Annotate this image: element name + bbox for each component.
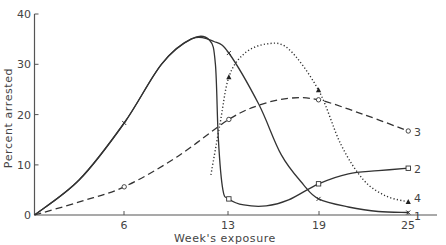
series-4	[211, 43, 411, 204]
x-tick-label: 25	[401, 219, 415, 232]
x-axis-title: Week's exposure	[174, 232, 276, 245]
square-marker	[406, 166, 410, 170]
series-line	[35, 98, 409, 215]
series-3	[35, 98, 411, 215]
x-tick-label: 13	[221, 219, 235, 232]
y-tick-label: 40	[17, 8, 31, 21]
series-label-1: 1	[414, 210, 421, 223]
series-label-4: 4	[414, 192, 421, 205]
circle-marker	[406, 129, 410, 133]
x-axis: 6 13 19 25 Week's exposure	[35, 211, 438, 245]
series-labels: 1 2 3 4	[414, 126, 421, 223]
y-tick-label: 10	[17, 159, 31, 172]
y-tick-label: 30	[17, 58, 31, 71]
series-line	[211, 43, 408, 202]
series-line	[35, 36, 409, 215]
series-line	[35, 37, 409, 215]
y-tick-label: 0	[24, 209, 31, 222]
x-tick-label: 19	[312, 219, 326, 232]
series-layer	[35, 36, 411, 215]
square-marker	[316, 182, 320, 186]
circle-marker	[316, 98, 320, 102]
series-label-2: 2	[414, 163, 421, 176]
square-marker	[227, 197, 231, 201]
cross-marker	[227, 51, 231, 55]
circle-marker	[122, 185, 126, 189]
series-label-3: 3	[414, 126, 421, 139]
triangle-marker	[316, 87, 321, 92]
triangle-marker	[226, 74, 231, 79]
x-tick-label: 6	[121, 219, 128, 232]
line-chart: 0 10 20 30 40 Percent arrested 6 13 19 2…	[0, 0, 446, 245]
y-axis-title: Percent arrested	[2, 68, 15, 168]
circle-marker	[227, 117, 231, 121]
triangle-marker	[406, 199, 411, 204]
y-tick-label: 20	[17, 109, 31, 122]
y-axis: 0 10 20 30 40 Percent arrested	[2, 8, 39, 222]
series-2	[35, 36, 411, 215]
